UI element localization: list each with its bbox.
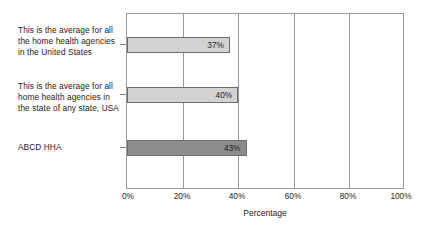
bar: 37% (127, 37, 230, 53)
category-label: ABCD HHA (18, 142, 124, 153)
bar-value-label: 43% (224, 144, 241, 152)
gridline-40 (238, 14, 239, 188)
x-axis-tick-label: 60% (285, 192, 302, 200)
x-axis-title: Percentage (126, 209, 404, 218)
bar-value-label: 40% (216, 91, 233, 99)
category-label: This is the average for all home health … (18, 81, 124, 115)
x-axis-tick-label: 80% (340, 192, 357, 200)
bar: 40% (127, 87, 238, 103)
bar-chart: This is the average for all the home hea… (0, 0, 429, 230)
plot-area: 37% 40% 43% (126, 13, 404, 189)
bar: 43% (127, 140, 247, 156)
x-axis-tick-label: 0% (122, 192, 134, 200)
x-axis-tick-label: 40% (229, 192, 246, 200)
gridline-60 (294, 14, 295, 188)
category-label: This is the average for all the home hea… (18, 25, 124, 59)
gridline-80 (349, 14, 350, 188)
x-axis-tick-label: 20% (174, 192, 191, 200)
x-axis-tick-label: 100% (390, 192, 411, 200)
bar-value-label: 37% (207, 41, 224, 49)
category-label-group: This is the average for all the home hea… (0, 0, 126, 230)
